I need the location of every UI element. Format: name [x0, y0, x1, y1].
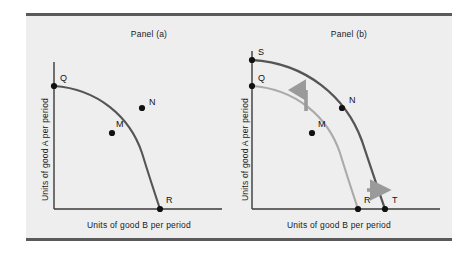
panel-b-label-S: S	[258, 47, 264, 57]
panel-b-expanded-curve	[252, 60, 385, 209]
panel-b-label-N: N	[349, 95, 356, 105]
panel-b-point-S	[249, 57, 255, 63]
panel-b-point-M	[309, 130, 315, 136]
panel-b-label-M: M	[318, 119, 326, 129]
panel-b-point-N	[339, 105, 345, 111]
panel-b-label-R: R	[364, 195, 371, 205]
panel-b-point-Q	[249, 83, 255, 89]
panel-b-point-R	[355, 206, 361, 212]
figure-container: Panel (a) Units of good A per period Uni…	[26, 13, 452, 241]
panel-b-plot: S Q N M R T	[26, 13, 452, 241]
panel-b-label-Q: Q	[258, 73, 265, 83]
panel-b-label-T: T	[392, 195, 398, 205]
panel-b-point-T	[382, 206, 388, 212]
